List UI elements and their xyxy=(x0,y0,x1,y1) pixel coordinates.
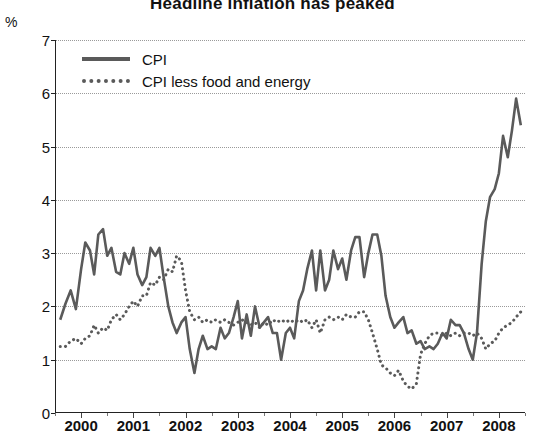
y-axis-tick-label: 3 xyxy=(30,245,50,262)
x-axis-minor-tick-mark xyxy=(264,413,265,416)
x-axis-minor-tick-mark xyxy=(212,413,213,416)
x-axis-tick-mark xyxy=(342,413,343,418)
legend-swatch-solid-line xyxy=(82,57,130,61)
x-axis-tick-label: 2000 xyxy=(64,417,97,434)
legend-entry-cpi: CPI xyxy=(82,48,362,70)
y-axis-tick-labels: 01234567 xyxy=(26,40,50,413)
x-axis-tick-mark xyxy=(133,413,134,418)
legend-label-core-cpi: CPI less food and energy xyxy=(142,73,310,90)
series-paths xyxy=(55,40,525,413)
x-axis-tick-mark xyxy=(238,413,239,418)
x-axis-minor-tick-mark xyxy=(525,413,526,416)
x-axis-tick-label: 2006 xyxy=(378,417,411,434)
series-line-cpi xyxy=(60,99,521,373)
y-axis-tick-label: 0 xyxy=(30,405,50,422)
x-axis-tick-mark xyxy=(81,413,82,418)
chart-title: Headline inflation has peaked xyxy=(0,0,545,14)
x-axis-tick-label: 2008 xyxy=(482,417,515,434)
x-axis-minor-tick-mark xyxy=(316,413,317,416)
x-axis-tick-label: 2005 xyxy=(326,417,359,434)
y-axis-tick-label: 5 xyxy=(30,138,50,155)
y-axis-tick-label: 7 xyxy=(30,32,50,49)
x-axis-tick-mark xyxy=(499,413,500,418)
x-axis-minor-tick-mark xyxy=(55,413,56,416)
y-axis-unit-label: % xyxy=(5,14,17,30)
x-axis-tick-mark xyxy=(394,413,395,418)
x-axis-minor-tick-mark xyxy=(368,413,369,416)
x-axis-tick-mark xyxy=(186,413,187,418)
y-axis-tick-label: 6 xyxy=(30,85,50,102)
x-axis-tick-label: 2002 xyxy=(169,417,202,434)
x-axis-minor-tick-mark xyxy=(421,413,422,416)
x-axis-minor-tick-mark xyxy=(473,413,474,416)
x-axis-tick-label: 2004 xyxy=(273,417,306,434)
x-axis-tick-label: 2007 xyxy=(430,417,463,434)
x-axis-minor-tick-mark xyxy=(159,413,160,416)
legend-entry-core-cpi: CPI less food and energy xyxy=(82,70,362,92)
plot-area xyxy=(55,40,525,413)
y-axis-tick-label: 1 xyxy=(30,351,50,368)
x-axis-minor-tick-mark xyxy=(107,413,108,416)
x-axis-tick-mark xyxy=(290,413,291,418)
inflation-line-chart: Headline inflation has peaked % 01234567… xyxy=(0,0,545,437)
legend-label-cpi: CPI xyxy=(142,51,167,68)
y-axis-tick-label: 4 xyxy=(30,191,50,208)
x-axis-tick-mark xyxy=(447,413,448,418)
x-axis-tick-label: 2001 xyxy=(117,417,150,434)
y-axis-tick-label: 2 xyxy=(30,298,50,315)
legend-swatch-dotted-line xyxy=(82,79,130,83)
chart-legend: CPI CPI less food and energy xyxy=(82,48,362,92)
x-axis-tick-label: 2003 xyxy=(221,417,254,434)
